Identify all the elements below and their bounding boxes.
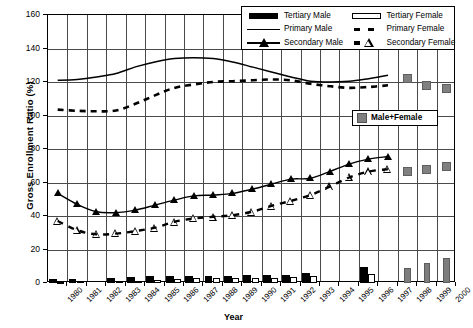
male-female-legend-label: Male+Female: [371, 114, 422, 122]
y-axis-tick-mark: [43, 14, 47, 15]
x-axis-tick-mark: [280, 282, 281, 286]
y-axis-tick-label: 40: [0, 211, 40, 220]
y-axis-tick-label: 60: [0, 178, 40, 187]
male-female-legend: Male+Female: [352, 110, 438, 126]
x-axis-tick-label: 1995: [357, 286, 375, 304]
x-axis-tick-mark: [66, 282, 67, 286]
x-axis-tick-mark: [319, 282, 320, 286]
x-axis-tick-label: 1996: [377, 286, 395, 304]
legend-label: Primary Female: [387, 25, 445, 33]
x-axis-tick-mark: [144, 282, 145, 286]
y-axis-tick-mark: [43, 215, 47, 216]
x-axis-tick-label: 1992: [299, 286, 317, 304]
y-axis-tick-label: 80: [0, 144, 40, 153]
x-axis-tick-mark: [222, 282, 223, 286]
line-primary-female: [58, 80, 388, 112]
y-axis-tick-label: 100: [0, 111, 40, 120]
y-axis-tick-label: 120: [0, 77, 40, 86]
line-filled-triangle-icon: [246, 37, 281, 48]
legend-item-primary-male: Primary Male: [246, 24, 349, 35]
line-series-layer: [48, 15, 456, 283]
dashed-line-icon: [349, 24, 384, 35]
legend-item-tertiary-female: Tertiary Female: [349, 10, 452, 21]
x-axis-tick-mark: [241, 282, 242, 286]
x-axis-tick-label: 1981: [85, 286, 103, 304]
x-axis-tick-label: 1997: [396, 286, 414, 304]
x-axis-tick-label: 1980: [66, 286, 84, 304]
x-axis-tick-mark: [300, 282, 301, 286]
x-axis-tick-label: 1986: [182, 286, 200, 304]
x-axis-tick-mark: [358, 282, 359, 286]
x-axis-tick-mark: [164, 282, 165, 286]
x-axis-tick-mark: [377, 282, 378, 286]
solid-line-icon: [246, 24, 281, 35]
x-axis-tick-mark: [105, 282, 106, 286]
line-primary-male: [58, 58, 388, 82]
x-axis-tick-label: 1998: [416, 286, 434, 304]
x-axis-title: Year: [0, 312, 467, 322]
legend-item-secondary-male: Secondary Male: [246, 37, 349, 48]
y-axis-tick-label: 20: [0, 245, 40, 254]
x-axis-tick-mark: [86, 282, 87, 286]
y-axis-tick-label: 160: [0, 10, 40, 19]
legend-label: Tertiary Male: [284, 12, 331, 20]
x-axis-tick-mark: [455, 282, 456, 286]
y-axis-tick-mark: [43, 148, 47, 149]
x-axis-tick-label: 1988: [221, 286, 239, 304]
x-axis-tick-mark: [416, 282, 417, 286]
y-axis-tick-mark: [43, 81, 47, 82]
gray-square-icon: [357, 113, 367, 123]
chart-legend: Tertiary Male Tertiary Female Primary Ma…: [241, 6, 455, 50]
x-axis-tick-mark: [125, 282, 126, 286]
y-axis-tick-mark: [43, 282, 47, 283]
legend-row: Primary Male Primary Female: [246, 23, 451, 37]
y-axis-tick-mark: [43, 249, 47, 250]
x-axis-tick-label: 1984: [144, 286, 162, 304]
x-axis-tick-mark: [183, 282, 184, 286]
legend-label: Primary Male: [284, 25, 332, 33]
y-axis-tick-mark: [43, 182, 47, 183]
line-secondary-male: [58, 157, 388, 213]
x-axis-tick-label: 1993: [318, 286, 336, 304]
y-axis-tick-mark: [43, 48, 47, 49]
y-axis-tick-mark: [43, 115, 47, 116]
x-axis-tick-mark: [338, 282, 339, 286]
x-axis-tick-label: 1990: [260, 286, 278, 304]
legend-label: Secondary Male: [284, 39, 343, 47]
x-axis-tick-label: 1987: [202, 286, 220, 304]
legend-item-tertiary-male: Tertiary Male: [246, 10, 349, 21]
open-bar-icon: [349, 10, 384, 21]
legend-item-secondary-female: Secondary Female: [349, 37, 452, 48]
legend-item-primary-female: Primary Female: [349, 24, 452, 35]
line-secondary-female: [58, 169, 388, 234]
legend-row: Tertiary Male Tertiary Female: [246, 9, 451, 23]
legend-label: Secondary Female: [387, 39, 456, 47]
x-axis-tick-label: 1982: [105, 286, 123, 304]
x-axis-tick-mark: [261, 282, 262, 286]
x-axis-tick-label: 1983: [124, 286, 142, 304]
y-axis-tick-label: 140: [0, 44, 40, 53]
dashed-open-triangle-icon: [349, 37, 384, 48]
y-axis-tick-label: 0: [0, 278, 40, 287]
x-axis-tick-mark: [202, 282, 203, 286]
solid-bar-icon: [246, 10, 281, 21]
x-axis-tick-label: 1989: [241, 286, 259, 304]
x-axis-tick-mark: [397, 282, 398, 286]
legend-label: Tertiary Female: [387, 12, 443, 20]
x-axis-tick-label: 2000: [454, 286, 472, 304]
legend-row: Secondary Male Secondary Female: [246, 36, 451, 50]
x-axis-tick-label: 1985: [163, 286, 181, 304]
x-axis-tick-mark: [436, 282, 437, 286]
x-axis-tick-label: 1991: [280, 286, 298, 304]
x-axis-tick-label: 1999: [435, 286, 453, 304]
x-axis-tick-label: 1994: [338, 286, 356, 304]
plot-area: [47, 14, 455, 282]
